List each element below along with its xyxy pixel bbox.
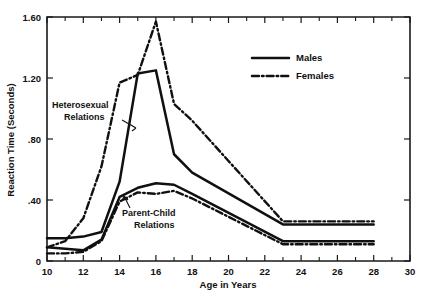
legend-label-males: Males [296,52,322,63]
x-tick-label: 16 [151,266,162,277]
y-tick-label: .80 [28,134,41,145]
annotation-heterosexual-line1: Heterosexual [52,100,109,110]
x-axis-title: Age in Years [200,279,257,290]
annotation-heterosexual-line2: Relations [64,112,105,122]
x-tick-label: 24 [296,266,307,277]
x-tick-label: 14 [114,266,125,277]
y-axis-title: Reaction Time (Seconds) [5,83,16,196]
legend-label-females: Females [296,70,334,81]
x-tick-label: 26 [332,266,343,277]
x-tick-label: 30 [405,266,416,277]
x-tick-label: 10 [42,266,53,277]
annotation-parent-child-line2: Relations [134,220,175,230]
y-tick-label: 0 [36,256,41,267]
x-tick-label: 20 [223,266,234,277]
y-tick-label: .40 [28,195,41,206]
x-tick-label: 18 [187,266,198,277]
y-tick-label: 1.60 [23,12,42,23]
chart-canvas: 1012141618202224262830 0.40.801.201.60 A… [0,0,425,298]
x-tick-label: 12 [78,266,89,277]
reaction-time-line-chart: 1012141618202224262830 0.40.801.201.60 A… [0,0,425,298]
x-tick-label: 22 [260,266,271,277]
y-tick-label: 1.20 [23,73,42,84]
x-tick-label: 28 [368,266,379,277]
annotation-parent-child-line1: Parent-Child [122,208,176,218]
